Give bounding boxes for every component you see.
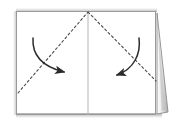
origami-fold-diagram <box>0 0 173 127</box>
sheet-body <box>16 11 156 115</box>
diagram-canvas <box>0 0 173 127</box>
sheet-shadow-bottom <box>16 113 162 118</box>
